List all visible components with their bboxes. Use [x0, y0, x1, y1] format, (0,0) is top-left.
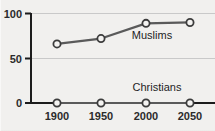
series-christians-point-2000 — [142, 99, 149, 106]
y-tick-label-50: 50 — [10, 53, 22, 65]
y-tick-label-0: 0 — [16, 97, 22, 109]
chart-figure: 100 50 0 1900 1950 2000 2050 Muslims Chr… — [0, 0, 215, 131]
y-tick-label-100: 100 — [4, 8, 22, 20]
series-christians — [53, 99, 193, 106]
x-tick-label-2000: 2000 — [134, 110, 158, 122]
series-label-muslims: Muslims — [132, 29, 173, 41]
series-muslims-point-2000 — [142, 20, 149, 27]
series-christians-point-1900 — [53, 99, 60, 106]
x-tick-label-1950: 1950 — [89, 110, 113, 122]
x-tick-label-1900: 1900 — [45, 110, 69, 122]
series-muslims-point-1900 — [53, 40, 60, 47]
series-muslims-point-2050 — [186, 19, 193, 26]
line-chart-svg: 100 50 0 1900 1950 2000 2050 Muslims Chr… — [0, 0, 215, 131]
x-tick-label-2050: 2050 — [178, 110, 202, 122]
y-axis — [25, 13, 31, 103]
series-muslims — [53, 19, 193, 48]
series-christians-point-2050 — [186, 99, 193, 106]
series-label-christians: Christians — [133, 81, 182, 93]
series-muslims-point-1950 — [97, 35, 104, 42]
series-christians-point-1950 — [97, 99, 104, 106]
